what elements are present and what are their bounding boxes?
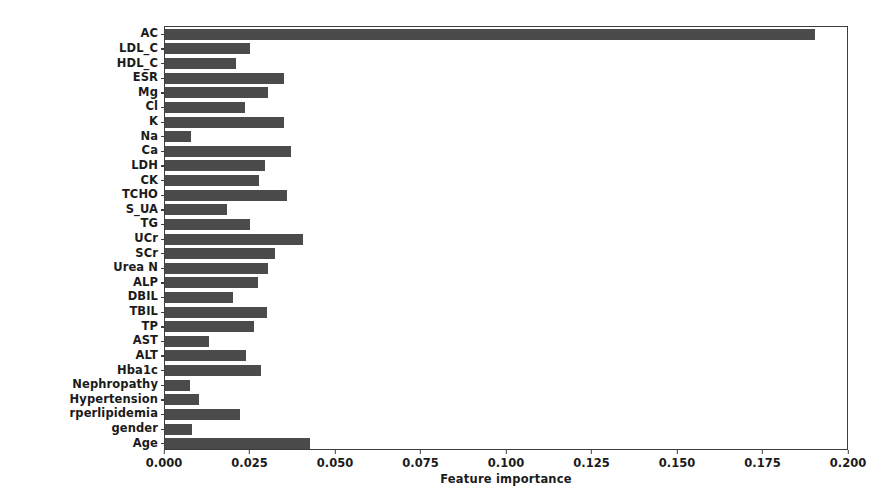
bar-row: UCr [165,232,847,246]
y-tick-mark [161,370,165,371]
x-tick-mark [249,450,250,454]
x-tick-mark [591,450,592,454]
bar [165,190,287,201]
bar-row: DBIL [165,290,847,304]
figure: ACLDL_CHDL_CESRMgClKNaCaLDHCKTCHOS_UATGU… [0,0,888,494]
x-tick: 0.175 [744,450,780,470]
y-tick-label: AC [140,28,158,39]
bar-row: Age [165,437,847,451]
y-tick-label: rperlipidemia [70,408,158,419]
y-tick-label: ESR [133,72,158,83]
bar [165,73,284,84]
y-tick-label: Mg [138,87,158,98]
x-tick-label: 0.100 [488,456,524,470]
x-tick: 0.125 [573,450,609,470]
x-tick-mark [762,450,763,454]
x-tick-label: 0.125 [573,456,609,470]
bar-row: SCr [165,247,847,261]
x-tick-label: 0.075 [402,456,438,470]
x-tick-label: 0.025 [231,456,267,470]
bar [165,365,261,376]
x-tick: 0.025 [231,450,267,470]
x-tick-label: 0.050 [317,456,353,470]
bar [165,131,191,142]
y-tick-label: K [149,116,158,127]
bar-row: rperlipidemia [165,407,847,421]
bar [165,248,275,259]
x-tick: 0.000 [146,450,182,470]
bar-row: TP [165,320,847,334]
y-tick-label: TCHO [122,189,158,200]
y-tick-mark [161,63,165,64]
bar-row: S_UA [165,203,847,217]
x-tick: 0.200 [830,450,866,470]
y-tick-mark [161,355,165,356]
plot-area: ACLDL_CHDL_CESRMgClKNaCaLDHCKTCHOS_UATGU… [164,26,848,450]
bar [165,336,209,347]
bar-row: AC [165,27,847,41]
y-tick-label: Urea N [113,262,158,273]
bar-row: Mg [165,86,847,100]
x-tick-mark [676,450,677,454]
bar [165,29,815,40]
y-tick-label: DBIL [128,291,158,302]
y-tick-mark [161,282,165,283]
bar [165,204,227,215]
y-tick-mark [161,151,165,152]
x-tick: 0.075 [402,450,438,470]
bar-row: ALP [165,276,847,290]
bar [165,234,303,245]
bar [165,277,258,288]
y-tick-mark [161,297,165,298]
y-tick-label: LDL_C [119,43,158,54]
y-tick-label: SCr [135,248,158,259]
bar [165,424,192,435]
bar-row: TCHO [165,188,847,202]
y-tick-label: Nephropathy [72,379,158,390]
x-axis-label: Feature importance [164,472,848,486]
y-tick-mark [161,429,165,430]
y-tick-label: gender [111,423,158,434]
y-tick-label: S_UA [126,204,158,215]
x-tick-mark [334,450,335,454]
bar [165,117,284,128]
bar-row: TG [165,217,847,231]
y-tick-label: LDH [131,160,158,171]
bar [165,292,233,303]
y-tick-label: TG [141,218,158,229]
y-tick-mark [161,78,165,79]
y-tick-mark [161,136,165,137]
y-tick-mark [161,165,165,166]
bar-row: Hypertension [165,393,847,407]
bar [165,219,250,230]
bar-row: Nephropathy [165,378,847,392]
y-tick-mark [161,414,165,415]
y-tick-label: Age [133,438,158,449]
y-tick-mark [161,341,165,342]
bar-row: K [165,115,847,129]
y-tick-mark [161,253,165,254]
y-tick-label: TBIL [129,306,158,317]
bar [165,87,268,98]
y-tick-mark [161,92,165,93]
x-tick-mark [420,450,421,454]
x-tick-mark [505,450,506,454]
bar-row: Hba1c [165,364,847,378]
y-tick-mark [161,385,165,386]
y-tick-mark [161,180,165,181]
bar-row: Ca [165,144,847,158]
y-tick-mark [161,224,165,225]
bar [165,350,246,361]
bar [165,160,265,171]
y-tick-mark [161,268,165,269]
bar [165,102,245,113]
bar [165,409,240,420]
x-tick: 0.100 [488,450,524,470]
bar-row: ALT [165,349,847,363]
bar [165,263,268,274]
x-tick: 0.050 [317,450,353,470]
x-tick-label: 0.000 [146,456,182,470]
x-tick-label: 0.150 [659,456,695,470]
y-tick-label: Na [140,131,158,142]
bar [165,146,291,157]
